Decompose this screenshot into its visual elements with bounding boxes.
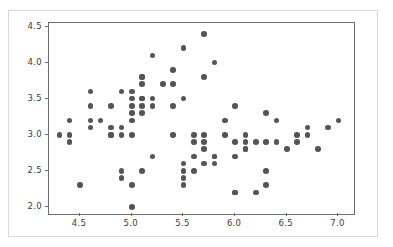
scatter-point: [294, 132, 300, 138]
scatter-point: [67, 132, 73, 138]
y-tick-label: 3.0: [14, 129, 42, 139]
scatter-point: [67, 118, 73, 124]
scatter-point: [119, 175, 125, 181]
screenshot-root: 4.55.05.56.06.57.0 2.02.53.03.54.04.5: [0, 0, 393, 247]
scatter-point: [88, 125, 94, 131]
x-tick-label: 5.5: [175, 218, 189, 228]
y-tick-label: 3.5: [14, 93, 42, 103]
scatter-point: [108, 103, 114, 109]
y-tick-mark: [45, 62, 48, 63]
scatter-point: [181, 96, 187, 102]
y-tick-mark: [45, 206, 48, 207]
scatter-point: [212, 161, 218, 167]
scatter-point: [150, 103, 156, 109]
scatter-point: [222, 118, 228, 124]
scatter-points-layer: [49, 23, 354, 214]
scatter-point: [150, 96, 156, 102]
scatter-point: [263, 110, 269, 116]
scatter-point: [232, 103, 238, 109]
scatter-point: [191, 154, 197, 160]
scatter-point: [243, 146, 249, 152]
scatter-point: [139, 110, 145, 116]
scatter-point: [232, 139, 238, 145]
scatter-point: [88, 103, 94, 109]
scatter-point: [201, 139, 207, 145]
x-tick-label: 4.5: [72, 218, 86, 228]
x-tick-mark: [286, 213, 287, 216]
scatter-point: [108, 125, 114, 131]
scatter-point: [336, 118, 342, 124]
scatter-point: [253, 190, 259, 196]
y-tick-label: 4.0: [14, 57, 42, 67]
scatter-point: [315, 146, 321, 152]
scatter-point: [263, 168, 269, 174]
scatter-point: [129, 118, 135, 124]
scatter-point: [139, 168, 145, 174]
x-tick-mark: [182, 213, 183, 216]
scatter-point: [98, 118, 104, 124]
scatter-point: [67, 139, 73, 145]
scatter-point: [170, 103, 176, 109]
scatter-point: [274, 118, 280, 124]
scatter-point: [253, 139, 259, 145]
scatter-point: [119, 132, 125, 138]
x-tick-mark: [131, 213, 132, 216]
scatter-point: [129, 182, 135, 188]
scatter-point: [191, 132, 197, 138]
y-tick-mark: [45, 170, 48, 171]
scatter-point: [129, 89, 135, 95]
scatter-point: [108, 132, 114, 138]
scatter-point: [170, 81, 176, 87]
scatter-point: [129, 110, 135, 116]
x-tick-label: 7.0: [330, 218, 344, 228]
scatter-point: [263, 139, 269, 145]
scatter-point: [222, 132, 228, 138]
scatter-point: [181, 168, 187, 174]
scatter-point: [201, 132, 207, 138]
y-tick-mark: [45, 26, 48, 27]
scatter-point: [212, 60, 218, 66]
scatter-point: [119, 125, 125, 131]
scatter-point: [139, 81, 145, 87]
scatter-point: [88, 118, 94, 124]
x-tick-label: 6.0: [227, 218, 241, 228]
scatter-point: [243, 132, 249, 138]
scatter-point: [201, 161, 207, 167]
figure-card: 4.55.05.56.06.57.0 2.02.53.03.54.04.5: [8, 10, 378, 237]
scatter-point: [181, 45, 187, 51]
scatter-point: [170, 67, 176, 73]
scatter-point: [160, 81, 166, 87]
scatter-point: [77, 182, 83, 188]
scatter-point: [57, 132, 63, 138]
scatter-point: [212, 154, 218, 160]
scatter-point: [181, 182, 187, 188]
scatter-point: [139, 96, 145, 102]
scatter-point: [201, 146, 207, 152]
scatter-point: [139, 103, 145, 109]
scatter-point: [325, 125, 331, 131]
scatter-point: [129, 132, 135, 138]
x-tick-mark: [234, 213, 235, 216]
scatter-point: [170, 132, 176, 138]
scatter-point: [305, 132, 311, 138]
scatter-point: [88, 89, 94, 95]
scatter-point: [129, 103, 135, 109]
scatter-point: [150, 154, 156, 160]
scatter-point: [191, 168, 197, 174]
x-tick-label: 5.0: [123, 218, 137, 228]
y-tick-mark: [45, 134, 48, 135]
scatter-point: [129, 204, 135, 210]
scatter-point: [232, 190, 238, 196]
scatter-point: [232, 154, 238, 160]
x-tick-label: 6.5: [279, 218, 293, 228]
scatter-point: [150, 53, 156, 59]
scatter-point: [284, 146, 290, 152]
scatter-point: [119, 168, 125, 174]
scatter-point: [139, 74, 145, 80]
scatter-point: [201, 31, 207, 37]
plot-area[interactable]: [48, 22, 355, 215]
y-tick-mark: [45, 98, 48, 99]
scatter-point: [201, 74, 207, 80]
scatter-point: [274, 139, 280, 145]
scatter-point: [181, 161, 187, 167]
